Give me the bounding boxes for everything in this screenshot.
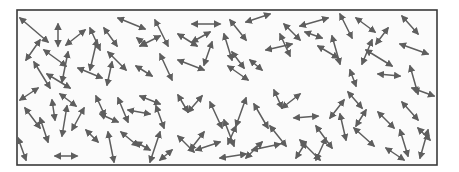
dipole-diagram — [0, 0, 459, 172]
